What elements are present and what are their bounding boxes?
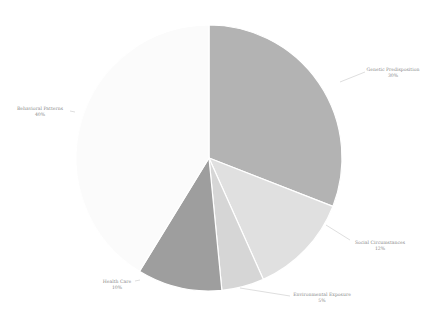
slice-value-label: 12% [375, 246, 386, 251]
slice-label: Genetic Predisposition [367, 67, 420, 72]
leader-line [240, 288, 290, 296]
pie-chart: Genetic Predisposition30%Social Circumst… [0, 0, 429, 325]
leader-line [340, 72, 365, 82]
slice-value-label: 30% [388, 73, 399, 78]
slice-label: Behavioral Patterns [17, 106, 64, 111]
slice-label: Environmental Exposure [293, 292, 351, 297]
slice-label: Health Care [103, 279, 132, 284]
slice-value-label: 10% [112, 285, 123, 290]
leader-line [326, 225, 350, 240]
slice-value-label: 40% [35, 112, 46, 117]
leader-line [135, 280, 140, 281]
slice-label: Social Circumstances [355, 240, 406, 245]
leader-line [70, 111, 75, 112]
slice-value-label: 5% [318, 298, 326, 303]
pie-slices [76, 25, 342, 291]
